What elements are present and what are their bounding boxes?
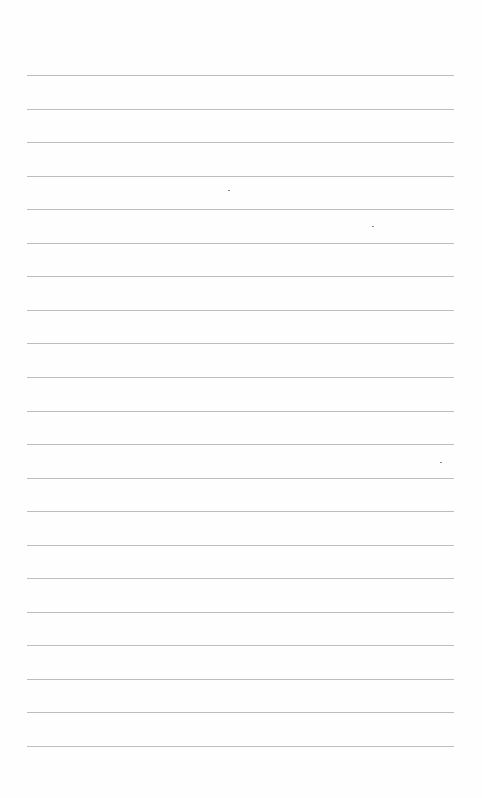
ruled-line [27,645,454,646]
lined-paper-page [0,0,482,798]
ruled-line [27,545,454,546]
scan-speck [228,190,230,191]
ruled-line [27,75,454,76]
ruled-line [27,746,454,747]
ruled-line [27,679,454,680]
ruled-line [27,209,454,210]
scan-speck [440,462,442,463]
ruled-line [27,310,454,311]
ruled-line [27,243,454,244]
ruled-line [27,276,454,277]
ruled-line [27,109,454,110]
ruled-line [27,142,454,143]
ruled-line [27,578,454,579]
scan-speck [372,226,374,227]
ruled-line [27,712,454,713]
ruled-line [27,612,454,613]
ruled-line [27,377,454,378]
ruled-line [27,411,454,412]
ruled-line [27,478,454,479]
ruled-line [27,176,454,177]
ruled-line [27,511,454,512]
ruled-line [27,343,454,344]
ruled-line [27,444,454,445]
